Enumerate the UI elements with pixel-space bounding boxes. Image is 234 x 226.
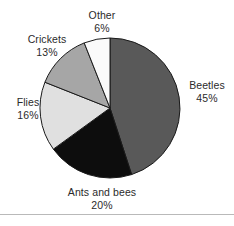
pie-label-beetles: Beetles 45% (180, 79, 234, 104)
pie-label-flies-name: Flies (4, 96, 52, 109)
pie-label-flies-value: 16% (4, 109, 52, 122)
pie-label-ants-and-bees: Ants and bees 20% (44, 186, 160, 211)
pie-label-crickets: Crickets 13% (14, 33, 80, 58)
pie-slice-group (40, 38, 180, 178)
footer-divider (0, 214, 234, 215)
pie-label-other: Other 6% (74, 9, 130, 34)
pie-label-crickets-value: 13% (14, 46, 80, 59)
pie-label-flies: Flies 16% (4, 96, 52, 121)
pie-label-ants-and-bees-name: Ants and bees (44, 186, 160, 199)
pie-label-crickets-name: Crickets (14, 33, 80, 46)
pie-label-other-value: 6% (74, 22, 130, 35)
pie-label-beetles-name: Beetles (180, 79, 234, 92)
pie-label-other-name: Other (74, 9, 130, 22)
pie-label-beetles-value: 45% (180, 92, 234, 105)
pie-chart: Other 6% Crickets 13% Flies 16% Ants and… (0, 0, 234, 226)
pie-label-ants-and-bees-value: 20% (44, 199, 160, 212)
